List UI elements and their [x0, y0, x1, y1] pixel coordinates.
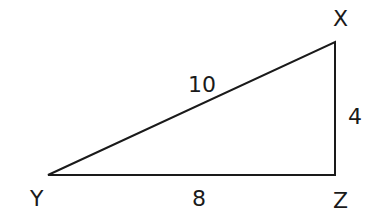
- triangle-diagram: X Y Z 10 8 4: [0, 0, 381, 219]
- side-label-xz: 4: [348, 104, 362, 129]
- side-label-xy: 10: [188, 72, 216, 97]
- triangle-xyz: [48, 42, 335, 175]
- vertex-label-z: Z: [333, 188, 348, 213]
- vertex-label-y: Y: [29, 186, 44, 211]
- side-label-yz: 8: [192, 186, 206, 211]
- vertex-label-x: X: [333, 6, 348, 31]
